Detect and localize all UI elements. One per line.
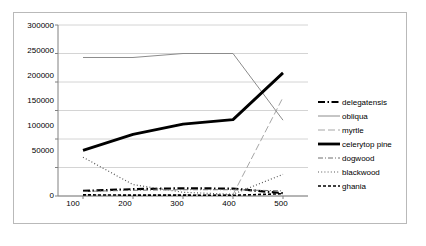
legend-item-celerytop-pine[interactable]: celerytop pine — [318, 137, 404, 151]
legend-item-label: ghania — [342, 182, 366, 191]
legend-key-icon — [318, 111, 340, 121]
legend-item-label: blackwood — [342, 168, 380, 177]
legend-item-label: obliqua — [342, 112, 368, 121]
legend-key-icon — [318, 167, 340, 177]
legend-item-label: delegatensis — [342, 98, 387, 107]
legend-key-icon — [318, 125, 340, 135]
series-line-myrtle — [83, 97, 283, 195]
legend-item-myrtle[interactable]: myrtle — [318, 123, 404, 137]
legend-key-icon — [318, 139, 340, 149]
legend-key-icon — [318, 97, 340, 107]
legend-item-label: celerytop pine — [342, 140, 392, 149]
legend-item-obliqua[interactable]: obliqua — [318, 109, 404, 123]
legend-item-ghania[interactable]: ghania — [318, 179, 404, 193]
legend-item-delegatensis[interactable]: delegatensis — [318, 95, 404, 109]
legend-key-icon — [318, 153, 340, 163]
axes — [55, 25, 308, 199]
data-series-group — [83, 54, 283, 196]
legend-item-label: myrtle — [342, 126, 364, 135]
legend-key-icon — [318, 181, 340, 191]
legend-item-label: dogwood — [342, 154, 374, 163]
series-line-ghania — [83, 194, 283, 196]
legend-item-dogwood[interactable]: dogwood — [318, 151, 404, 165]
chart-container: 300000 250000 200000 150000 100000 50000… — [0, 0, 426, 246]
legend-item-blackwood[interactable]: blackwood — [318, 165, 404, 179]
chart-legend: delegatensisobliquamyrtlecelerytop pined… — [318, 95, 404, 193]
gridlines — [58, 25, 308, 196]
